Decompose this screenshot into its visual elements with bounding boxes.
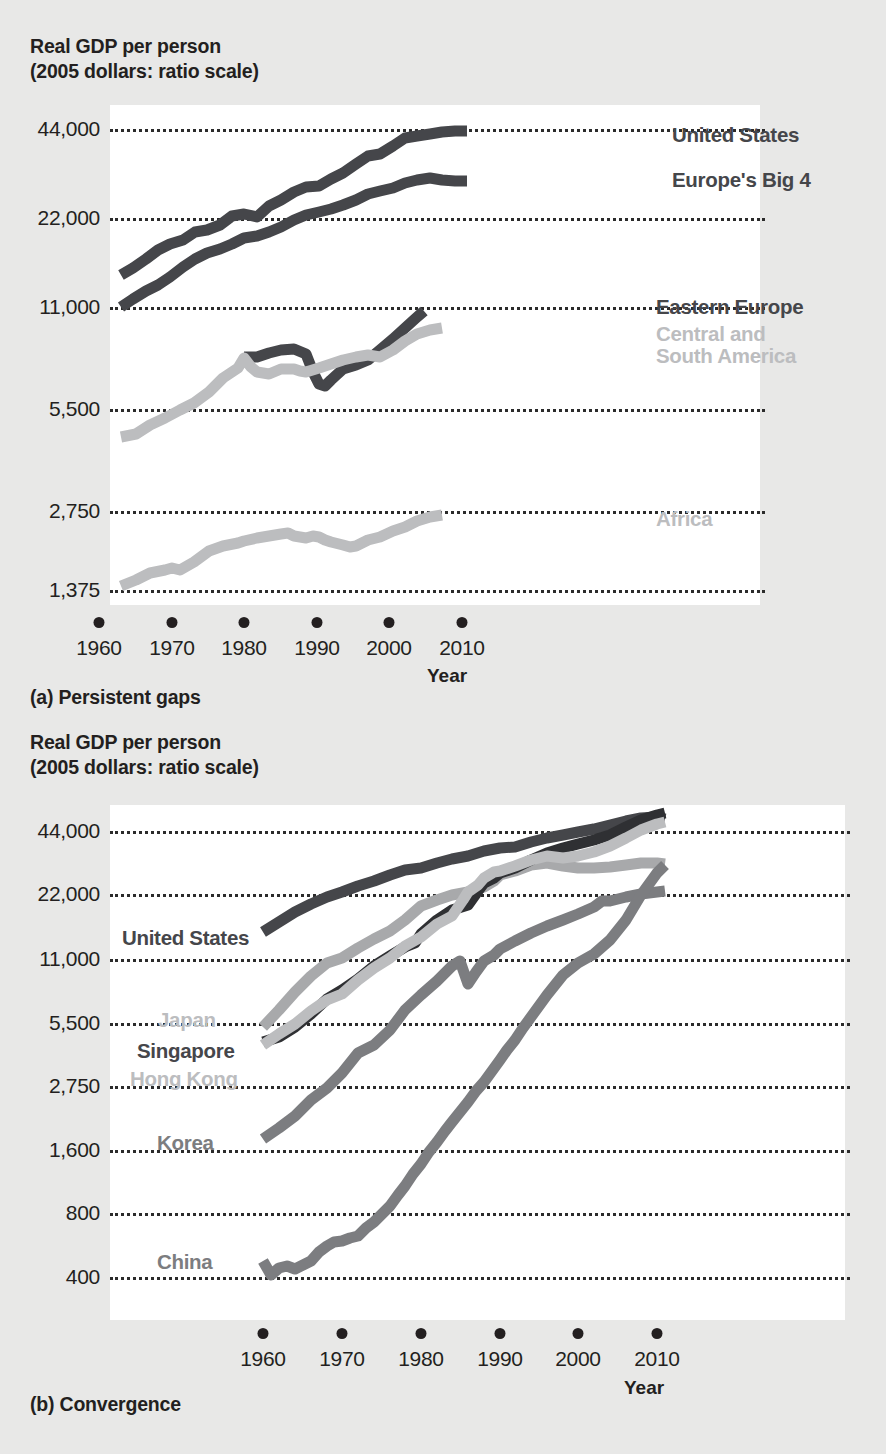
xtick-dot-b-1 <box>337 1328 348 1339</box>
series-label-central-south-america-a: Central and South America <box>656 323 796 367</box>
xtick-label-b-4: 2000 <box>555 1347 601 1371</box>
xtick-dot-b-4 <box>573 1328 584 1339</box>
line-africa-a <box>121 515 442 586</box>
xtick-dot-a-4 <box>384 617 395 628</box>
series-label-china-b: China <box>157 1251 212 1273</box>
xtick-label-b-0: 1960 <box>240 1347 286 1371</box>
panel-a-caption: (a) Persistent gaps <box>30 686 201 709</box>
figure-root: Real GDP per person (2005 dollars: ratio… <box>0 0 886 1454</box>
series-label-japan-b: Japan <box>158 1009 216 1031</box>
xtick-label-b-2: 1980 <box>398 1347 444 1371</box>
series-label-united-states-a: United States <box>672 124 799 146</box>
series-label-korea-b: Korea <box>157 1132 214 1154</box>
xtick-dot-b-5 <box>652 1328 663 1339</box>
xtick-label-b-1: 1970 <box>319 1347 365 1371</box>
line-china-b <box>263 865 665 1275</box>
panel-persistent-gaps: Real GDP per person (2005 dollars: ratio… <box>0 0 886 720</box>
xtick-dot-a-1 <box>167 617 178 628</box>
xtick-label-b-5: 2010 <box>634 1347 680 1371</box>
xtick-dot-a-5 <box>457 617 468 628</box>
panel-b-caption: (b) Convergence <box>30 1393 181 1416</box>
series-label-hong-kong-b: Hong Kong <box>130 1068 238 1090</box>
xtick-label-a-2: 1980 <box>221 636 267 660</box>
series-label-africa-a: Africa <box>656 508 712 530</box>
xtick-dot-b-3 <box>495 1328 506 1339</box>
series-label-eastern-europe-a: Eastern Europe <box>656 296 803 318</box>
line-united-states-a <box>121 131 467 275</box>
line-central-south-america-a <box>121 328 442 437</box>
xtick-label-a-3: 1990 <box>294 636 340 660</box>
xtick-dot-b-2 <box>416 1328 427 1339</box>
xaxis-title-b: Year <box>624 1377 664 1399</box>
series-label-united-states-b: United States <box>122 927 249 949</box>
xtick-label-b-3: 1990 <box>477 1347 523 1371</box>
xtick-label-a-5: 2010 <box>439 636 485 660</box>
xtick-dot-a-3 <box>312 617 323 628</box>
series-label-europes-big-4-a: Europe's Big 4 <box>672 169 811 191</box>
panel-convergence: Real GDP per person (2005 dollars: ratio… <box>0 720 886 1454</box>
xtick-dot-b-0 <box>258 1328 269 1339</box>
xtick-label-a-0: 1960 <box>76 636 122 660</box>
xtick-label-a-4: 2000 <box>366 636 412 660</box>
xtick-dot-a-2 <box>239 617 250 628</box>
series-label-singapore-b: Singapore <box>137 1040 235 1062</box>
xtick-label-a-1: 1970 <box>149 636 195 660</box>
xtick-dot-a-0 <box>94 617 105 628</box>
xaxis-title-a: Year <box>427 665 467 687</box>
